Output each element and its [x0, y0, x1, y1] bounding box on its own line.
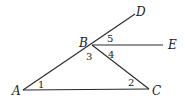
point-label-E: E — [167, 38, 177, 52]
diagram-canvas: A B C D E 1 2 3 4 5 — [0, 0, 185, 99]
point-label-B: B — [78, 36, 88, 50]
point-label-C: C — [152, 84, 161, 98]
angle-label-5: 5 — [107, 33, 113, 44]
angle-label-1: 1 — [38, 79, 44, 90]
angle-label-4: 4 — [108, 49, 114, 60]
point-label-D: D — [135, 5, 146, 19]
geometry-diagram: A B C D E 1 2 3 4 5 — [0, 0, 185, 99]
angle-label-3: 3 — [86, 51, 92, 62]
segment-BC — [92, 45, 149, 89]
point-label-A: A — [11, 84, 21, 98]
angle-label-2: 2 — [128, 77, 134, 88]
